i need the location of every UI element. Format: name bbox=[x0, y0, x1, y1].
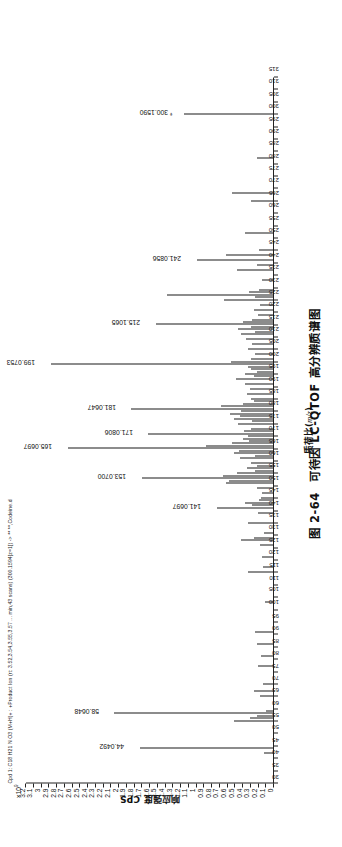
x-axis-tick-label: 90 bbox=[272, 625, 279, 631]
x-axis-tick bbox=[274, 497, 278, 498]
y-axis-tick-label: 2.2 bbox=[97, 788, 104, 797]
spectrum-peak bbox=[248, 435, 274, 436]
spectrum-peak bbox=[252, 504, 274, 505]
spectrum-peak bbox=[259, 289, 275, 290]
y-axis-tick-label: 1.1 bbox=[182, 788, 189, 797]
x-axis-tick-label: 245 bbox=[269, 239, 279, 245]
spectrum-peak bbox=[257, 465, 274, 466]
figure-caption-text: 可待因 LC-QTOF 高分辨质谱图 bbox=[308, 308, 322, 481]
spectrum-peak bbox=[255, 631, 274, 632]
y-axis-tick bbox=[203, 783, 204, 787]
spectrum-peak bbox=[252, 420, 274, 421]
spectrum-peak bbox=[247, 467, 274, 468]
spectrum-peak bbox=[245, 232, 274, 233]
spectrum-peak bbox=[243, 438, 274, 439]
x-axis-tick bbox=[274, 708, 278, 709]
y-axis-tick bbox=[33, 783, 34, 787]
y-axis-tick-label: 2.1 bbox=[105, 788, 112, 797]
y-axis-tick bbox=[265, 783, 266, 787]
x-axis-tick-label: 285 bbox=[269, 140, 279, 146]
spectrum-peak bbox=[254, 537, 274, 538]
x-axis-tick bbox=[274, 311, 278, 312]
spectrum-peak bbox=[257, 643, 274, 644]
x-axis-tick bbox=[274, 757, 278, 758]
y-axis-tick bbox=[103, 783, 104, 787]
peak-annotation-label: 58.0648 bbox=[74, 707, 99, 714]
x-axis-tick bbox=[274, 88, 278, 89]
spectrum-peak bbox=[239, 450, 274, 451]
spectrum-peak bbox=[248, 571, 274, 572]
spectrum-peak bbox=[251, 462, 274, 463]
spectrum-peak bbox=[223, 475, 274, 476]
x-axis-tick bbox=[274, 460, 278, 461]
peak-annotation-label: 300.1590 bbox=[140, 107, 168, 114]
y-axis-tick-label: 1.7 bbox=[136, 788, 143, 797]
y-axis-tick-label: 1.4 bbox=[159, 788, 166, 797]
spectrum-peak bbox=[156, 323, 274, 324]
x-axis-tick bbox=[274, 423, 278, 424]
y-axis-tick bbox=[250, 783, 251, 787]
x-axis-tick-label: 30 bbox=[272, 773, 279, 779]
x-axis-tick-label: 260 bbox=[269, 202, 279, 208]
spectrum-peak bbox=[240, 415, 274, 416]
spectrum-peak bbox=[251, 398, 274, 399]
spectrum-peak bbox=[259, 249, 274, 250]
y-axis-tick-label: 1.9 bbox=[120, 788, 127, 797]
y-axis-tick-label: 0.7 bbox=[213, 788, 220, 797]
y-axis-tick-label: 2.8 bbox=[50, 788, 57, 797]
peak-annotation-label: 215.1065 bbox=[112, 318, 140, 325]
y-axis-tick-label: 1.2 bbox=[174, 788, 181, 797]
y-axis-tick bbox=[188, 783, 189, 787]
y-axis-tick bbox=[118, 783, 119, 787]
spectrum-peak bbox=[241, 539, 274, 540]
spectrum-peak bbox=[224, 299, 274, 300]
x-axis-tick bbox=[274, 683, 278, 684]
spectrum-peak bbox=[260, 544, 274, 545]
y-axis-tick bbox=[72, 783, 73, 787]
peak-annotation-label: 44.0492 bbox=[100, 742, 125, 749]
x-axis-tick-label: 270 bbox=[269, 177, 279, 183]
x-axis-tick-label: 300 bbox=[269, 103, 279, 109]
x-axis-tick bbox=[274, 448, 278, 449]
spectrum-peak bbox=[232, 192, 274, 193]
y-axis-tick bbox=[172, 783, 173, 787]
peak-annotation-label: 181.0647 bbox=[87, 402, 115, 409]
x-axis-tick bbox=[274, 274, 278, 275]
peak-annotation-label: 165.0697 bbox=[24, 442, 52, 449]
figure-caption: 图 2-64可待因 LC-QTOF 高分辨质谱图 bbox=[306, 0, 322, 847]
x-axis-tick bbox=[274, 76, 278, 77]
x-axis-tick bbox=[274, 547, 278, 548]
x-axis-tick-label: 85 bbox=[272, 637, 279, 643]
x-axis-tick-label: 120 bbox=[269, 549, 279, 555]
x-axis-tick bbox=[274, 373, 278, 374]
x-axis-tick-label: 290 bbox=[269, 128, 279, 134]
x-axis-tick bbox=[274, 571, 278, 572]
y-axis-tick-label: 2.4 bbox=[81, 788, 88, 797]
y-axis-tick bbox=[234, 783, 235, 787]
spectrum-peak bbox=[230, 413, 274, 414]
spectrum-peak bbox=[258, 314, 274, 315]
spectrum-peak bbox=[262, 492, 274, 493]
x-axis-tick bbox=[274, 658, 278, 659]
spectrum-peak bbox=[247, 393, 274, 394]
spectrum-peak bbox=[248, 348, 274, 349]
spectrum-peak bbox=[255, 296, 274, 297]
spectrum-peak bbox=[231, 361, 274, 362]
spectrum-peak bbox=[252, 319, 274, 320]
spectrum-peak bbox=[257, 264, 274, 265]
y-axis-tick bbox=[157, 783, 158, 787]
spectrum-peak bbox=[255, 353, 274, 354]
y-axis-tick-label: 0.3 bbox=[244, 788, 251, 797]
spectrum-peak bbox=[131, 408, 274, 409]
spectrum-peak bbox=[261, 497, 274, 498]
spectrum-peak bbox=[258, 512, 274, 513]
spectrum-peak bbox=[254, 309, 274, 310]
spectrum-peak bbox=[260, 695, 274, 696]
spectrum-peak bbox=[250, 717, 274, 718]
y-axis-tick bbox=[110, 783, 111, 787]
y-axis-tick bbox=[48, 783, 49, 787]
x-axis-tick-label: 80 bbox=[272, 650, 279, 656]
x-axis-tick bbox=[274, 770, 278, 771]
spectrum-peak bbox=[197, 259, 275, 260]
y-axis-tick-label: 0.2 bbox=[252, 788, 259, 797]
